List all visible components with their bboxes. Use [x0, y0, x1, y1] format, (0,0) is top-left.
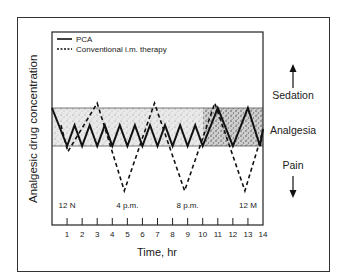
legend-im-label: Conventional i.m. therapy: [76, 45, 167, 54]
clock-label: 12 N: [59, 201, 76, 210]
x-tick-label: 5: [125, 230, 130, 239]
y-axis-title: Analgesic drug concentration: [27, 55, 39, 203]
clock-time-labels: 12 N4 p.m.8 p.m.12 M: [59, 201, 258, 210]
clock-label: 8 p.m.: [177, 201, 199, 210]
x-axis-ticks: [67, 218, 248, 225]
x-tick-label: 2: [80, 230, 85, 239]
chart: 1234567891011121314 12 N4 p.m.8 p.m.12 M…: [0, 0, 346, 279]
pain-label: Pain: [282, 159, 303, 171]
x-tick-label: 3: [95, 230, 100, 239]
clock-label: 4 p.m.: [116, 201, 138, 210]
x-tick-label: 7: [155, 230, 160, 239]
x-tick-label: 9: [185, 230, 190, 239]
x-tick-label: 12: [228, 230, 237, 239]
x-tick-label: 4: [110, 230, 115, 239]
x-tick-label: 1: [65, 230, 70, 239]
x-tick-label: 8: [170, 230, 175, 239]
x-axis-title: Time, hr: [137, 246, 177, 258]
x-tick-label: 14: [259, 230, 268, 239]
sedation-indicator: Sedation: [272, 64, 314, 101]
x-tick-label: 13: [243, 230, 252, 239]
x-axis-tick-labels: 1234567891011121314: [65, 230, 268, 239]
clock-label: 12 M: [239, 201, 257, 210]
legend-pca-label: PCA: [76, 35, 93, 44]
legend: PCA Conventional i.m. therapy: [57, 35, 167, 54]
analgesia-label: Analgesia: [270, 124, 316, 136]
up-arrowhead-icon: [290, 64, 297, 72]
down-arrowhead-icon: [290, 190, 297, 198]
sedation-label: Sedation: [272, 89, 314, 101]
x-tick-label: 11: [214, 230, 223, 239]
x-tick-label: 10: [198, 230, 207, 239]
x-tick-label: 6: [140, 230, 145, 239]
pain-indicator: Pain: [282, 159, 303, 198]
